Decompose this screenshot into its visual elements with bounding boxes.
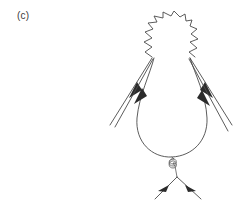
external-line-lower-left xyxy=(115,59,153,127)
external-line-upper-left xyxy=(110,58,152,125)
photon-wavy-line xyxy=(144,11,198,57)
feynman-diagram xyxy=(0,0,250,204)
arrowhead-bottom-left xyxy=(158,185,169,192)
arrowhead-bottom-right xyxy=(185,185,196,192)
external-line-upper-right xyxy=(190,58,232,125)
figure-panel: (c) xyxy=(0,0,250,204)
external-line-lower-right xyxy=(189,59,228,131)
gluon-spiral xyxy=(169,157,177,177)
